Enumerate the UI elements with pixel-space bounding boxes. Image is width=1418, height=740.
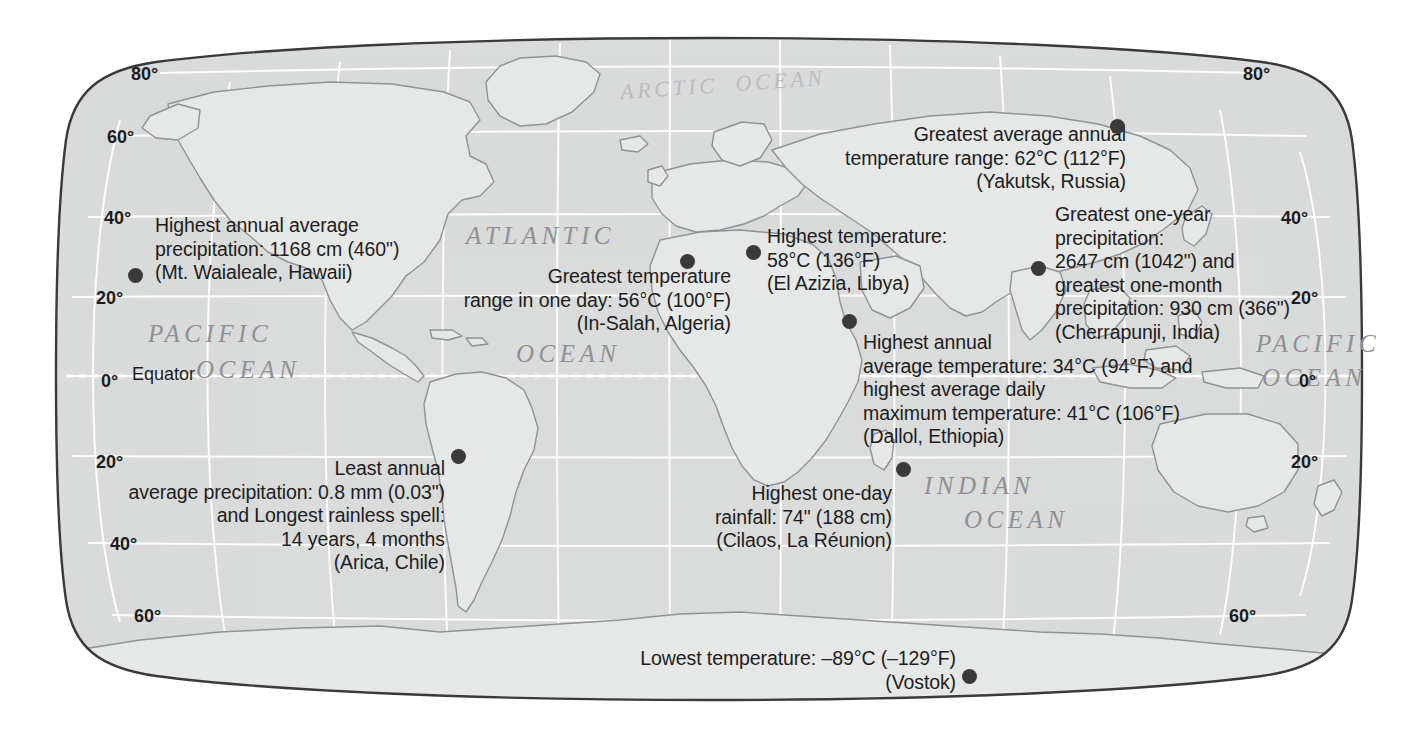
- annotation-mt-waialeale-line-2: precipitation: 1168 cm (460"): [155, 238, 399, 262]
- annotation-in-salah-line-2: range in one day: 56°C (100°F): [431, 289, 731, 313]
- lat-label-80n-left: 80°: [131, 64, 158, 85]
- marker-cilaos-la-reunion[interactable]: [896, 462, 911, 477]
- annotation-dallol-line-4: maximum temperature: 41°C (106°F): [863, 402, 1193, 426]
- lat-label-20s-right: 20°: [1291, 452, 1318, 473]
- marker-in-salah-algeria[interactable]: [680, 254, 695, 269]
- annotation-cherrapunji-line-4: greatest one-month: [1055, 274, 1290, 298]
- annotation-el-azizia-line-3: (El Azizia, Libya): [767, 272, 947, 296]
- lat-label-0-right: 0°: [1299, 371, 1316, 392]
- annotation-cherrapunji-line-3: 2647 cm (1042") and: [1055, 250, 1290, 274]
- annotation-vostok-line-1: Lowest temperature: –89°C (–129°F): [556, 647, 956, 671]
- marker-yakutsk-russia[interactable]: [1110, 119, 1125, 134]
- marker-el-azizia-libya[interactable]: [746, 245, 761, 260]
- annotation-in-salah-line-1: Greatest temperature: [431, 265, 731, 289]
- annotation-cilaos-line-1: Highest one-day: [620, 482, 892, 506]
- annotation-in-salah: Greatest temperaturerange in one day: 56…: [431, 265, 731, 336]
- lat-label-60s-right: 60°: [1229, 606, 1256, 627]
- annotation-vostok-line-2: (Vostok): [556, 671, 956, 695]
- annotation-cilaos: Highest one-dayrainfall: 74" (188 cm)(Ci…: [620, 482, 892, 553]
- annotation-dallol: Highest annualaverage temperature: 34°C …: [863, 331, 1193, 449]
- indian-ocean-label-line2: OCEAN: [964, 506, 1068, 534]
- pacific-ocean-label-line2: OCEAN: [196, 356, 300, 384]
- annotation-arica-line-2: average precipitation: 0.8 mm (0.03"): [90, 481, 445, 505]
- annotation-el-azizia-line-1: Highest temperature:: [767, 225, 947, 249]
- world-climate-extremes-map: ARCTIC OCEANATLANTICOCEANPACIFICOCEANPAC…: [0, 0, 1418, 740]
- annotation-dallol-line-3: highest average daily: [863, 378, 1193, 402]
- annotation-cherrapunji-line-2: precipitation:: [1055, 227, 1290, 251]
- lat-label-20n-right: 20°: [1291, 288, 1318, 309]
- annotation-arica-line-3: and Longest rainless spell:: [90, 504, 445, 528]
- annotation-arica: Least annualaverage precipitation: 0.8 m…: [90, 457, 445, 575]
- annotation-dallol-line-5: (Dallol, Ethiopia): [863, 425, 1193, 449]
- indian-ocean-label-line1: INDIAN: [924, 472, 1034, 500]
- annotation-yakutsk-line-3: (Yakutsk, Russia): [836, 170, 1126, 194]
- marker-dallol-ethiopia[interactable]: [842, 314, 857, 329]
- lat-label-80n-right: 80°: [1243, 64, 1270, 85]
- annotation-cilaos-line-2: rainfall: 74" (188 cm): [620, 506, 892, 530]
- annotation-cilaos-line-3: (Cilaos, La Réunion): [620, 529, 892, 553]
- annotation-cherrapunji-line-1: Greatest one-year: [1055, 203, 1290, 227]
- pacific-ocean-label-line1: PACIFIC: [148, 320, 272, 348]
- annotation-dallol-line-2: average temperature: 34°C (94°F) and: [863, 355, 1193, 379]
- atlantic-ocean-label-line1: ATLANTIC: [466, 222, 615, 250]
- annotation-in-salah-line-3: (In-Salah, Algeria): [431, 312, 731, 336]
- annotation-arica-line-1: Least annual: [90, 457, 445, 481]
- annotation-el-azizia: Highest temperature:58°C (136°F)(El Aziz…: [767, 225, 947, 296]
- annotation-yakutsk: Greatest average annualtemperature range…: [836, 123, 1126, 194]
- annotation-arica-line-4: 14 years, 4 months: [90, 528, 445, 552]
- equator-label: Equator: [132, 364, 195, 385]
- annotation-arica-line-5: (Arica, Chile): [90, 551, 445, 575]
- annotation-mt-waialeale-line-1: Highest annual average: [155, 214, 399, 238]
- marker-mt-waialeale[interactable]: [128, 268, 143, 283]
- lat-label-20n-left: 20°: [96, 288, 123, 309]
- lat-label-60s-left: 60°: [134, 606, 161, 627]
- lat-label-60n-left: 60°: [107, 127, 134, 148]
- annotation-cherrapunji: Greatest one-yearprecipitation:2647 cm (…: [1055, 203, 1290, 344]
- marker-cherrapunji-india[interactable]: [1031, 261, 1046, 276]
- marker-vostok[interactable]: [962, 669, 977, 684]
- lat-label-40n-left: 40°: [104, 208, 131, 229]
- annotation-vostok: Lowest temperature: –89°C (–129°F)(Vosto…: [556, 647, 956, 694]
- marker-arica-chile[interactable]: [451, 449, 466, 464]
- annotation-yakutsk-line-2: temperature range: 62°C (112°F): [836, 147, 1126, 171]
- annotation-yakutsk-line-1: Greatest average annual: [836, 123, 1126, 147]
- lat-label-0-left: 0°: [101, 371, 118, 392]
- annotation-cherrapunji-line-5: precipitation: 930 cm (366"): [1055, 297, 1290, 321]
- annotation-el-azizia-line-2: 58°C (136°F): [767, 249, 947, 273]
- atlantic-ocean-label-line2: OCEAN: [516, 340, 620, 368]
- annotation-mt-waialeale-line-3: (Mt. Waialeale, Hawaii): [155, 261, 399, 285]
- annotation-mt-waialeale: Highest annual averageprecipitation: 116…: [155, 214, 399, 285]
- annotation-dallol-line-1: Highest annual: [863, 331, 1193, 355]
